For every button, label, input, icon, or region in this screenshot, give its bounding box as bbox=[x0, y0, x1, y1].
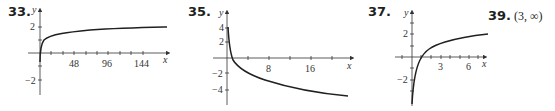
svg-text:48: 48 bbox=[69, 58, 79, 69]
svg-text:8: 8 bbox=[266, 63, 271, 74]
svg-text:−4: −4 bbox=[212, 84, 223, 95]
svg-text:−2: −2 bbox=[25, 75, 36, 86]
svg-text:2: 2 bbox=[219, 36, 224, 47]
curve bbox=[412, 34, 488, 104]
svg-text:96: 96 bbox=[102, 58, 112, 69]
svg-text:y: y bbox=[403, 7, 409, 18]
graphs-canvas: 48 96 144 2 −2 x y 8 16 4 2 −2 −4 x y bbox=[0, 0, 555, 111]
curve bbox=[228, 27, 348, 96]
svg-text:x: x bbox=[481, 58, 487, 69]
svg-text:2: 2 bbox=[30, 21, 35, 32]
svg-text:y: y bbox=[218, 7, 224, 18]
svg-text:3: 3 bbox=[438, 61, 443, 72]
svg-text:2: 2 bbox=[403, 28, 408, 39]
graph-37: 3 6 2 −2 x y bbox=[395, 7, 488, 106]
curve bbox=[40, 27, 167, 62]
svg-text:x: x bbox=[162, 54, 168, 65]
graph-33: 48 96 144 2 −2 x y bbox=[25, 4, 168, 95]
svg-text:16: 16 bbox=[305, 63, 315, 74]
svg-text:y: y bbox=[31, 4, 37, 15]
svg-text:x: x bbox=[346, 60, 352, 71]
svg-text:4: 4 bbox=[219, 22, 224, 33]
graph-35: 8 16 4 2 −2 −4 x y bbox=[212, 7, 352, 105]
svg-text:−2: −2 bbox=[397, 74, 408, 85]
svg-text:−2: −2 bbox=[212, 68, 223, 79]
svg-text:6: 6 bbox=[466, 61, 471, 72]
svg-text:144: 144 bbox=[134, 58, 149, 69]
